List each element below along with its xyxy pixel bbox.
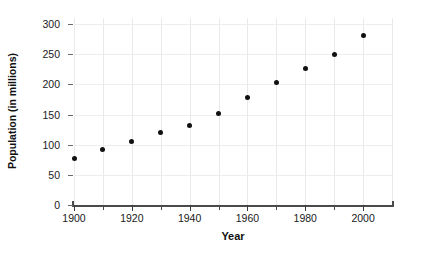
- x-axis-tick-minor: [161, 205, 162, 210]
- x-axis-tick-major: [74, 205, 75, 211]
- gridline-horizontal: [74, 84, 392, 85]
- gridline-vertical: [247, 18, 248, 205]
- y-axis-tick-label: 150: [42, 109, 60, 121]
- x-axis-tick-major: [305, 205, 306, 211]
- x-axis-tick-label: 1960: [236, 212, 259, 224]
- x-axis-tick-major: [190, 205, 191, 211]
- gridline-vertical: [190, 18, 191, 205]
- y-axis-tick-label: 200: [42, 78, 60, 90]
- data-point: [274, 80, 279, 85]
- x-axis-tick-major: [132, 205, 133, 211]
- data-point: [361, 33, 366, 38]
- gridline-vertical: [74, 18, 75, 205]
- gridline-vertical: [363, 18, 364, 205]
- data-point: [245, 95, 250, 100]
- gridline-horizontal: [74, 24, 392, 25]
- y-axis-tick: [68, 54, 73, 55]
- y-axis-title: Population (in millions): [6, 16, 18, 206]
- data-point: [303, 66, 308, 71]
- x-axis-tick-major: [247, 205, 248, 211]
- x-axis-tick-minor: [334, 205, 335, 210]
- population-scatter-chart: Year Population (in millions) 1900192019…: [0, 0, 426, 254]
- gridline-vertical: [334, 18, 335, 205]
- y-axis-tick: [68, 115, 73, 116]
- gridline-vertical: [103, 18, 104, 205]
- gridline-horizontal: [74, 175, 392, 176]
- y-axis-tick-label: 250: [42, 48, 60, 60]
- x-axis-tick-label: 1980: [294, 212, 317, 224]
- x-axis-tick-minor: [103, 205, 104, 210]
- y-axis-tick: [68, 175, 73, 176]
- x-axis-tick-label: 2000: [351, 212, 374, 224]
- data-point: [158, 130, 163, 135]
- y-axis-tick: [68, 24, 73, 25]
- y-axis-tick-label: 100: [42, 139, 60, 151]
- x-axis-tick-label: 1900: [62, 212, 85, 224]
- x-axis-tick-major: [363, 205, 364, 211]
- gridline-vertical: [132, 18, 133, 205]
- x-axis-tick-minor: [219, 205, 220, 210]
- data-point: [129, 139, 134, 144]
- x-axis-line: [72, 205, 394, 207]
- gridline-horizontal: [74, 54, 392, 55]
- y-axis-tick-label: 300: [42, 18, 60, 30]
- data-point: [72, 156, 77, 161]
- y-axis-tick-label: 50: [48, 169, 60, 181]
- x-axis-tick-minor: [276, 205, 277, 210]
- gridline-vertical: [161, 18, 162, 205]
- gridline-vertical: [392, 18, 393, 205]
- gridline-horizontal: [74, 115, 392, 116]
- data-point: [216, 111, 221, 116]
- y-axis-tick: [68, 205, 73, 206]
- gridline-horizontal: [74, 145, 392, 146]
- gridline-vertical: [305, 18, 306, 205]
- x-axis-title: Year: [74, 230, 392, 242]
- x-axis-tick-label: 1940: [178, 212, 201, 224]
- gridline-vertical: [276, 18, 277, 205]
- data-point: [187, 123, 192, 128]
- y-axis-tick-label: 0: [54, 199, 60, 211]
- y-axis-tick: [68, 84, 73, 85]
- y-axis-tick: [68, 145, 73, 146]
- x-axis-tick-label: 1920: [120, 212, 143, 224]
- plot-area: [74, 18, 392, 205]
- data-point: [100, 147, 105, 152]
- data-point: [332, 52, 337, 57]
